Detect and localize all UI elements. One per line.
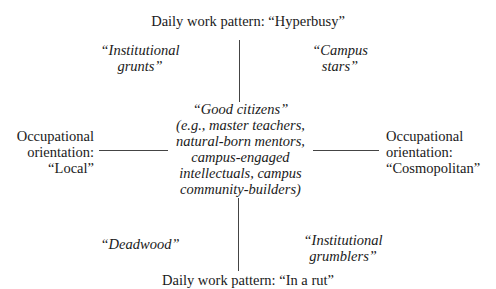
center-line5: intellectuals, campus xyxy=(168,165,313,181)
center-line6: community-builders) xyxy=(168,181,313,197)
center-good-citizens: “Good citizens” (e.g., master teachers, … xyxy=(168,101,313,197)
quadrant-top-left-line1: “Institutional xyxy=(95,42,185,58)
axis-label-right-line3: “Cosmopolitan” xyxy=(386,160,496,176)
axis-label-right-line2: orientation: xyxy=(386,144,496,160)
axis-label-left-line2: orientation: xyxy=(0,144,94,160)
horizontal-axis-left xyxy=(99,150,168,151)
vertical-axis-bottom xyxy=(238,198,239,271)
horizontal-axis-right xyxy=(313,150,379,151)
quadrant-bottom-left: “Deadwood” xyxy=(95,236,185,252)
axis-label-left-line3: “Local” xyxy=(0,160,94,176)
center-line3: natural-born mentors, xyxy=(168,133,313,149)
center-line2: (e.g., master teachers, xyxy=(168,117,313,133)
quadrant-bottom-right: “Institutional grumblers” xyxy=(293,232,393,264)
axis-label-bottom: Daily work pattern: “In a rut” xyxy=(0,272,496,288)
center-line4: campus-engaged xyxy=(168,149,313,165)
quadrant-top-right-line2: stars” xyxy=(300,58,380,74)
axis-label-right: Occupational orientation: “Cosmopolitan” xyxy=(386,128,496,176)
vertical-axis-top xyxy=(239,40,240,102)
quadrant-top-right-line1: “Campus xyxy=(300,42,380,58)
center-line1: “Good citizens” xyxy=(168,101,313,117)
quadrant-bottom-left-line1: “Deadwood” xyxy=(95,236,185,252)
quadrant-top-left: “Institutional grunts” xyxy=(95,42,185,74)
axis-label-right-line1: Occupational xyxy=(386,128,496,144)
quadrant-bottom-right-line2: grumblers” xyxy=(293,248,393,264)
axis-label-left-line1: Occupational xyxy=(0,128,94,144)
quadrant-top-right: “Campus stars” xyxy=(300,42,380,74)
quadrant-bottom-right-line1: “Institutional xyxy=(293,232,393,248)
axis-label-left: Occupational orientation: “Local” xyxy=(0,128,94,176)
quadrant-top-left-line2: grunts” xyxy=(95,58,185,74)
axis-label-top: Daily work pattern: “Hyperbusy” xyxy=(0,13,496,29)
